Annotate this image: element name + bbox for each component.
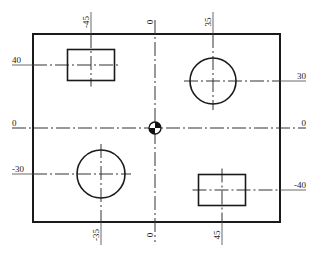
dimension-label-left: -30 bbox=[12, 164, 24, 174]
dimension-label-bottom: 45 bbox=[212, 230, 222, 240]
dimension-label-top: 0 bbox=[145, 19, 155, 24]
dimension-label-left: 40 bbox=[12, 55, 22, 65]
datum-origin-icon bbox=[149, 122, 161, 134]
technical-drawing: 400-30300-40-45035-35045 bbox=[0, 0, 318, 258]
dimension-label-bottom: -35 bbox=[91, 229, 101, 241]
dimension-label-right: 0 bbox=[302, 118, 307, 128]
dimension-label-right: -40 bbox=[294, 180, 306, 190]
dimension-label-right: 30 bbox=[297, 71, 307, 81]
dimension-label-bottom: 0 bbox=[145, 232, 155, 237]
dimension-label-top: 35 bbox=[203, 17, 213, 27]
dimension-label-left: 0 bbox=[12, 118, 17, 128]
dimension-label-top: -45 bbox=[81, 16, 91, 28]
